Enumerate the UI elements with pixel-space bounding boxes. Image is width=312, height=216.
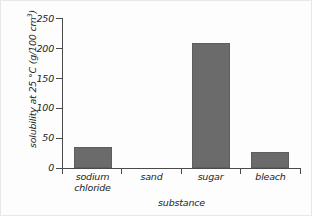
y-tick-label-50: 50 [1, 132, 63, 143]
x-tick-label-sand: sand [122, 171, 181, 182]
y-tick-label-100: 100 [1, 102, 63, 113]
y-tick-label-150: 150 [1, 73, 63, 84]
x-tick-mark-4 [300, 168, 301, 174]
x-tick-label-line1: bleach [241, 171, 300, 182]
y-tick-label-250: 250 [1, 13, 63, 24]
x-tick-label-line1: sand [122, 171, 181, 182]
bar-sugar[interactable] [192, 43, 230, 168]
x-tick-label-sodium-chloride: sodium chloride [63, 171, 122, 193]
y-tick-label-0: 0 [1, 162, 63, 173]
x-tick-label-sugar: sugar [181, 171, 240, 182]
y-tick-label-200: 200 [1, 43, 63, 54]
x-tick-label-line2: chloride [63, 182, 122, 193]
bar-sodium-chloride[interactable] [74, 147, 112, 168]
bars-layer [63, 19, 300, 168]
x-axis-title: substance [63, 197, 300, 208]
bar-bleach[interactable] [251, 152, 289, 168]
chart-screenshot: solubility at 25 °C (g/100 cm3) 250 200 … [0, 0, 312, 216]
x-tick-label-bleach: bleach [241, 171, 300, 182]
x-tick-label-line1: sodium [63, 171, 122, 182]
x-tick-label-line1: sugar [181, 171, 240, 182]
